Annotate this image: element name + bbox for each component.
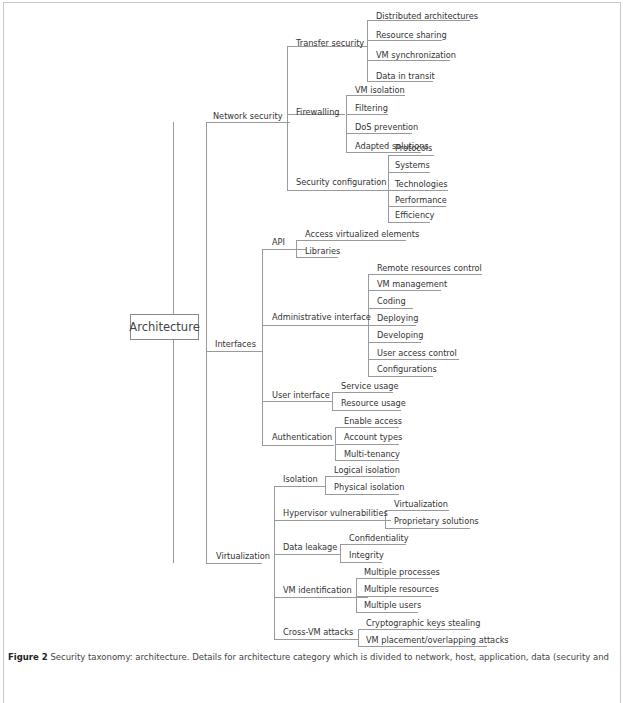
node-underline [274,597,368,598]
node-interfaces: Interfaces [215,339,256,349]
node-api: API [272,237,285,247]
node-underline [388,206,446,207]
node-enable-access: Enable access [344,416,402,426]
node-underline [206,351,262,352]
node-user-interface: User interface [272,390,330,400]
node-underline [368,376,433,377]
node-dos-prevention: DoS prevention [355,122,418,132]
node-underline [368,290,441,291]
node-confidentiality: Confidentiality [349,533,409,543]
node-underline [287,190,388,191]
node-virtualization: Virtualization [216,551,270,561]
node-vm-placement: VM placement/overlapping attacks [366,635,509,645]
node-vm-isolation: VM isolation [355,85,405,95]
node-systems: Systems [395,160,430,170]
node-physical-isolation: Physical isolation [334,482,404,492]
node-underline [296,240,406,241]
node-transfer-security: Transfer security [296,38,364,48]
branch-line [356,578,357,612]
branch-line [340,544,341,562]
branch-line [367,20,368,81]
caption-text: Security taxonomy: architecture. Details… [50,652,609,662]
node-underline [368,325,416,326]
node-security-configuration: Security configuration [296,177,387,187]
node-underline [358,629,470,630]
node-resource-sharing: Resource sharing [376,30,447,40]
node-underline [368,308,413,309]
node-underline [335,427,399,428]
node-underline [274,639,358,640]
node-underline [325,494,399,495]
node-efficiency: Efficiency [395,210,434,220]
node-proprietary-solutions: Proprietary solutions [394,516,479,526]
node-vm-identification: VM identification [283,585,352,595]
node-underline [262,401,332,402]
node-underline [274,554,340,555]
node-access-virtualized-elements: Access virtualized elements [305,229,419,239]
node-data-leakage: Data leakage [283,542,337,552]
node-cryptographic-keys-stealing: Cryptographic keys stealing [366,618,480,628]
node-underline [262,249,306,250]
caption-label: Figure 2 [8,652,48,662]
node-underline [388,155,434,156]
node-underline [356,578,432,579]
node-user-access-control: User access control [377,348,457,358]
node-underline [332,392,393,393]
branch-line [358,629,359,646]
node-underline [340,544,406,545]
node-isolation: Isolation [283,474,318,484]
node-underline [296,257,338,258]
node-logical-isolation: Logical isolation [334,465,400,475]
node-remote-resources-control: Remote resources control [377,263,482,273]
figure-caption: Figure 2 Security taxonomy: architecture… [8,652,609,662]
node-underline [206,563,262,564]
node-underline [367,60,450,61]
node-deploying: Deploying [377,313,418,323]
node-underline [340,562,382,563]
branch-line [206,122,207,563]
node-underline [335,460,399,461]
node-multiple-processes: Multiple processes [364,567,440,577]
branch-line [388,155,389,222]
node-underline [346,95,405,96]
branch-line [274,486,275,639]
node-hypervisor-vulnerabilities: Hypervisor vulnerabilities [283,508,388,518]
node-underline [367,40,442,41]
node-administrative-interface: Administrative interface [272,312,371,322]
node-underline [356,612,418,613]
node-protocols: Protocols [395,143,432,153]
node-authentication: Authentication [272,432,332,442]
node-underline [388,190,448,191]
node-underline [358,646,487,647]
node-developing: Developing [377,330,423,340]
node-multiple-users: Multiple users [364,600,421,610]
node-firewalling: Firewalling [296,107,340,117]
node-data-in-transit: Data in transit [376,71,435,81]
node-underline [335,444,399,445]
branch-line [287,46,288,190]
node-underline [385,510,449,511]
node-underline [367,81,433,82]
node-underline [368,359,459,360]
node-integrity: Integrity [349,550,384,560]
node-underline [368,342,421,343]
node-cross-vm-attacks: Cross-VM attacks [283,627,353,637]
node-underline [346,133,412,134]
node-filtering: Filtering [355,103,388,113]
node-account-types: Account types [344,432,402,442]
node-libraries: Libraries [305,246,340,256]
branch-line [346,95,347,152]
node-vm-management: VM management [377,279,447,289]
node-underline [206,122,290,123]
node-network-security: Network security [213,111,282,121]
node-distributed-architectures: Distributed architectures [376,11,478,21]
node-vm-synchronization: VM synchronization [376,50,456,60]
branch-line [173,122,174,563]
node-underline [274,520,391,521]
node-coding: Coding [377,296,406,306]
node-underline [262,445,334,446]
node-configurations: Configurations [377,364,437,374]
node-performance: Performance [395,195,447,205]
node-underline [388,222,430,223]
node-service-usage: Service usage [341,381,399,391]
